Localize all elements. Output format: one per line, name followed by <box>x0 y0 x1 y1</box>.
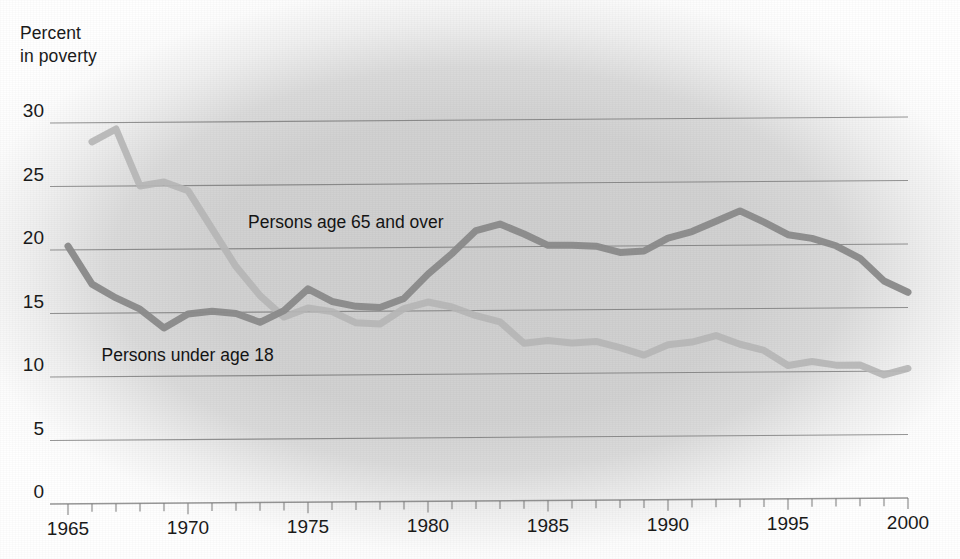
gridline-group <box>50 117 908 504</box>
series-line-65-and-over <box>92 129 908 375</box>
data-series-group <box>68 129 908 375</box>
chart-plot-area <box>0 0 960 559</box>
gridline-20 <box>50 244 908 250</box>
series-label-under-18: Persons under age 18 <box>102 345 274 366</box>
y-tick-label-5: 5 <box>0 418 44 440</box>
gridline-0 <box>50 498 908 504</box>
gridline-10 <box>50 371 908 377</box>
poverty-rate-chart: Percentin poverty 051015202530 196519701… <box>0 0 960 559</box>
gridline-30 <box>50 117 908 123</box>
gridline-15 <box>50 308 908 314</box>
x-tick-label-1970: 1970 <box>148 517 228 539</box>
x-tick-label-1995: 1995 <box>748 513 828 535</box>
x-tick-label-2000: 2000 <box>868 512 948 534</box>
series-label-65-and-over: Persons age 65 and over <box>248 212 444 233</box>
x-tick-label-1980: 1980 <box>388 515 468 537</box>
x-tick-label-1975: 1975 <box>268 516 348 538</box>
y-tick-label-10: 10 <box>0 354 44 376</box>
y-tick-label-20: 20 <box>0 227 44 249</box>
x-tick-label-1965: 1965 <box>28 518 108 540</box>
x-tick-label-1985: 1985 <box>508 515 588 537</box>
y-tick-label-25: 25 <box>0 164 44 186</box>
y-tick-label-30: 30 <box>0 100 44 122</box>
y-tick-label-0: 0 <box>0 481 44 503</box>
y-tick-label-15: 15 <box>0 291 44 313</box>
gridline-5 <box>50 435 908 441</box>
x-tick-label-1990: 1990 <box>628 514 708 536</box>
